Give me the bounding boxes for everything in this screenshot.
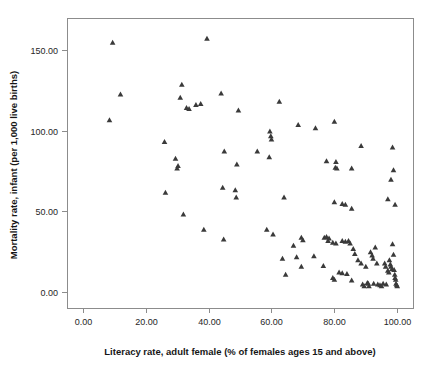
x-tick-label: 60.00 <box>260 317 283 327</box>
data-point-marker <box>281 195 287 200</box>
data-point-marker <box>107 117 113 122</box>
y-tick-label: 150.00 <box>30 46 58 56</box>
x-tick-label: 80.00 <box>323 317 346 327</box>
data-point-marker <box>179 82 185 87</box>
data-point-marker <box>388 177 394 182</box>
x-tick-label: 20.00 <box>135 317 158 327</box>
data-point-marker <box>313 125 319 130</box>
y-axis-title: Mortality rate, infant (per 1,000 live b… <box>8 71 19 259</box>
data-point-marker <box>294 254 300 259</box>
data-point-marker <box>358 143 364 148</box>
data-point-marker <box>267 128 273 133</box>
x-tick-label: 100.00 <box>384 317 412 327</box>
data-point-marker <box>344 271 350 276</box>
data-point-marker <box>221 236 227 241</box>
data-point-marker <box>391 252 397 257</box>
scatter-plot-figure: 0.0020.0040.0060.0080.00100.00 0.0050.00… <box>0 0 437 368</box>
data-point-marker <box>181 211 187 216</box>
x-axis-ticks: 0.0020.0040.0060.0080.00100.00 <box>75 308 412 327</box>
data-point-marker <box>218 91 224 96</box>
data-point-marker <box>283 272 289 277</box>
data-point-marker <box>233 195 239 200</box>
data-point-marker <box>355 257 361 262</box>
x-axis-title: Literacy rate, adult female (% of female… <box>104 346 375 357</box>
data-point-marker <box>266 154 272 159</box>
data-point-marker <box>299 264 305 269</box>
data-point-marker <box>221 149 227 154</box>
data-point-marker <box>201 227 207 232</box>
data-point-marker <box>324 158 330 163</box>
data-point-marker <box>349 166 355 171</box>
data-point-marker <box>220 185 226 190</box>
x-tick-label: 40.00 <box>198 317 221 327</box>
data-point-marker <box>311 253 317 258</box>
data-point-marker <box>374 261 380 266</box>
data-point-marker <box>371 281 377 286</box>
data-point-marker <box>234 162 240 167</box>
data-point-marker <box>264 227 270 232</box>
data-point-marker <box>349 206 355 211</box>
data-point-marker <box>193 102 199 107</box>
data-point-marker <box>333 159 339 164</box>
data-point-marker <box>363 264 369 269</box>
data-point-marker <box>390 145 396 150</box>
data-point-marker <box>321 263 327 268</box>
data-point-marker <box>277 99 283 104</box>
y-tick-label: 50.00 <box>35 207 58 217</box>
data-point-marker <box>385 196 391 201</box>
data-point-marker <box>350 246 356 251</box>
data-point-marker <box>270 232 276 237</box>
data-point-marker <box>268 133 274 138</box>
y-axis-ticks: 0.0050.00100.00150.00 <box>30 46 67 298</box>
data-point-marker <box>163 190 169 195</box>
data-point-marker <box>332 199 338 204</box>
data-point-marker <box>280 256 286 261</box>
data-point-marker <box>110 40 116 45</box>
data-point-marker <box>352 251 358 256</box>
data-points-layer <box>107 36 400 288</box>
data-point-marker <box>295 122 301 127</box>
data-point-marker <box>232 187 238 192</box>
data-point-marker <box>291 243 297 248</box>
data-point-marker <box>332 119 338 124</box>
data-point-marker <box>349 278 355 283</box>
data-point-marker <box>162 139 168 144</box>
data-point-marker <box>118 91 124 96</box>
data-point-marker <box>372 244 378 249</box>
data-point-marker <box>236 108 242 113</box>
y-tick-label: 100.00 <box>30 127 58 137</box>
data-point-marker <box>382 261 388 266</box>
data-point-marker <box>391 167 397 172</box>
data-point-marker <box>198 101 204 106</box>
y-tick-label: 0.00 <box>40 288 58 298</box>
data-point-marker <box>177 95 183 100</box>
data-point-marker <box>204 36 210 41</box>
data-point-marker <box>387 257 393 262</box>
plot-canvas: 0.0020.0040.0060.0080.00100.00 0.0050.00… <box>0 0 437 368</box>
x-tick-label: 0.00 <box>75 317 93 327</box>
data-point-marker <box>173 156 179 161</box>
data-point-marker <box>255 149 261 154</box>
data-point-marker <box>392 202 398 207</box>
data-point-marker <box>390 241 396 246</box>
